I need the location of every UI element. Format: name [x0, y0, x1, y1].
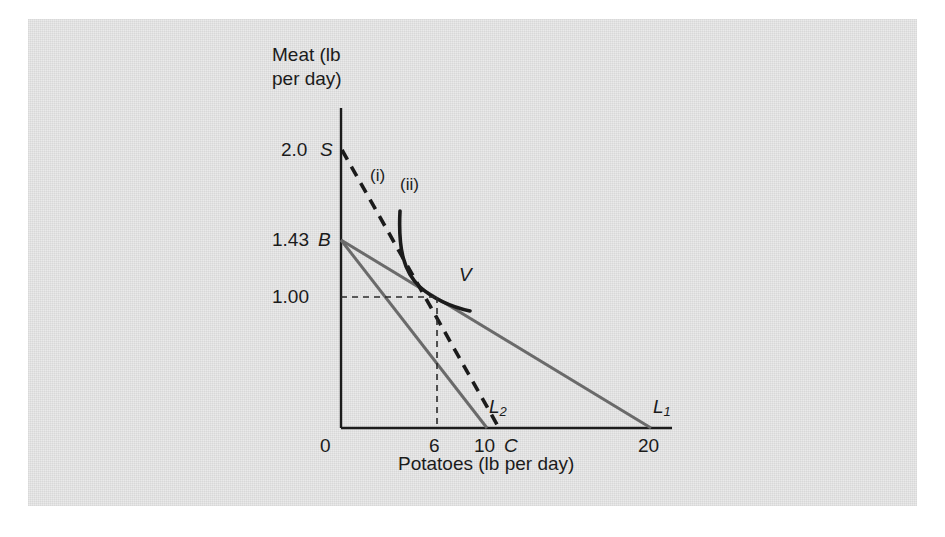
y-tick-label-1-00: 1.00: [272, 286, 309, 308]
x-tick-label-0: 0: [320, 435, 331, 457]
point-label-b: B: [318, 229, 331, 251]
indifference-curve-ii: [400, 211, 470, 311]
point-label-l2-letter: L: [489, 396, 500, 417]
y-tick-label-2-0: 2.0: [281, 139, 307, 161]
y-axis-title-line1: Meat (lb: [272, 44, 341, 66]
point-label-l1: L1: [653, 396, 671, 420]
y-axis-title-line2: per day): [272, 68, 342, 90]
point-label-s: S: [320, 139, 333, 161]
point-label-l1-subscript: 1: [664, 404, 671, 419]
curve-label-i: (i): [370, 166, 385, 186]
x-tick-label-20: 20: [638, 435, 659, 457]
curve-label-ii: (ii): [400, 175, 419, 195]
point-label-l1-letter: L: [653, 396, 664, 417]
point-label-v: V: [459, 264, 472, 286]
point-label-l2-subscript: 2: [500, 404, 507, 419]
point-label-l2: L2: [489, 396, 507, 420]
figure-root: Meat (lb per day) 2.0 1.43 1.00 0 6 10 2…: [0, 0, 945, 537]
y-tick-label-1-43: 1.43: [272, 229, 309, 251]
x-axis-title: Potatoes (lb per day): [398, 453, 574, 475]
point-label-c: C: [504, 435, 518, 457]
